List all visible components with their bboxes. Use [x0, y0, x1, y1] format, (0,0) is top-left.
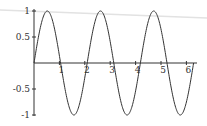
y-tick-label: -1: [21, 110, 30, 120]
sine-chart: 12345610.5-0.5-1: [0, 0, 207, 126]
y-tick-label: 0.5: [16, 32, 31, 42]
y-tick-label: -0.5: [13, 84, 31, 94]
x-tick-label: 5: [160, 65, 166, 75]
y-tick-label: 1: [24, 6, 30, 16]
x-tick-label: 6: [186, 65, 192, 75]
axes: [34, 9, 197, 116]
